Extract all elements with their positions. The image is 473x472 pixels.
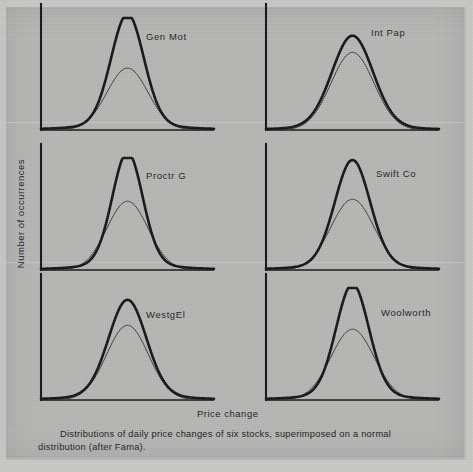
normal-distribution-curve [266,329,439,400]
figure-caption-text: Distributions of daily price changes of … [38,429,391,452]
figure-plate: Gen MotInt PapProctr GSwift CoWestgElWoo… [0,0,473,472]
y-axis-title: Number of occurrences [15,149,26,279]
x-axis-title: Price change [197,408,258,419]
panel-canvas [0,0,473,472]
panel-grid: Gen MotInt PapProctr GSwift CoWestgElWoo… [0,0,473,472]
empirical-distribution-curve [266,288,439,399]
figure-caption: Distributions of daily price changes of … [38,428,438,453]
panel-label: Woolworth [381,307,431,318]
